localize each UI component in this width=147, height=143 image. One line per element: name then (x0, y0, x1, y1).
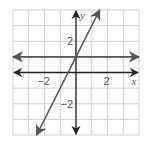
y-axis-label: y (79, 9, 85, 21)
x-tick-label: 2 (103, 75, 109, 87)
tick-labels: −222−2xy (37, 9, 136, 110)
y-tick-label: 2 (67, 35, 73, 47)
x-axis-label: x (131, 75, 137, 87)
axes (14, 11, 138, 134)
x-tick-label: −2 (37, 75, 50, 87)
y-tick-label: −2 (60, 98, 73, 110)
coordinate-plane: −222−2xy (0, 0, 147, 143)
